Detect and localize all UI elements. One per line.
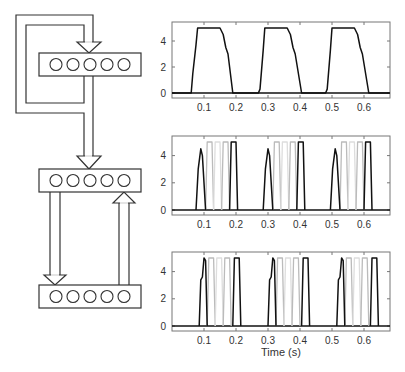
x-tick-label: 0.2: [229, 102, 243, 113]
x-tick-label: 0.4: [293, 102, 307, 113]
x-tick-label: 0.4: [293, 219, 307, 230]
x-axis-title: Time (s): [261, 346, 301, 358]
recurrent-layer: [39, 53, 141, 76]
x-tick-label: 0.1: [197, 102, 211, 113]
x-tick-label: 0.6: [357, 219, 371, 230]
x-tick-label: 0.1: [197, 219, 211, 230]
figure: 0240.10.20.30.40.50.60240.10.20.30.40.50…: [0, 0, 405, 372]
network-diagram: [16, 0, 141, 308]
chart-panel-3: 0240.10.20.30.40.50.6: [160, 252, 390, 346]
x-tick-label: 0.6: [357, 335, 371, 346]
feedback-outer-edge: [16, 15, 93, 156]
bottom-layer: [39, 285, 141, 308]
arrowhead-into-top-layer: [77, 42, 101, 53]
x-tick-label: 0.5: [325, 335, 339, 346]
y-tick-label: 4: [160, 36, 166, 47]
x-tick-label: 0.5: [325, 102, 339, 113]
x-tick-label: 0.2: [229, 219, 243, 230]
y-tick-label: 0: [160, 205, 166, 216]
y-tick-label: 0: [160, 321, 166, 332]
y-tick-label: 4: [160, 150, 166, 161]
y-tick-label: 2: [160, 293, 166, 304]
x-tick-label: 0.3: [261, 335, 275, 346]
x-tick-label: 0.1: [197, 335, 211, 346]
activity-charts: 0240.10.20.30.40.50.60240.10.20.30.40.50…: [160, 22, 390, 346]
middle-layer: [39, 169, 141, 192]
y-tick-label: 2: [160, 62, 166, 73]
arrowhead-into-bottom-layer: [44, 275, 66, 285]
arrowhead-into-middle-layer-from-bottom: [113, 192, 135, 203]
y-tick-label: 2: [160, 177, 166, 188]
x-tick-label: 0.3: [261, 102, 275, 113]
chart-panel-1: 0240.10.20.30.40.50.6: [160, 22, 390, 113]
chart-panel-2: 0240.10.20.30.40.50.6: [160, 136, 390, 230]
arrowhead-into-middle-layer: [77, 156, 101, 169]
y-tick-label: 0: [160, 88, 166, 99]
y-tick-label: 4: [160, 266, 166, 277]
x-tick-label: 0.4: [293, 335, 307, 346]
x-tick-label: 0.3: [261, 219, 275, 230]
x-tick-label: 0.5: [325, 219, 339, 230]
x-tick-label: 0.2: [229, 335, 243, 346]
x-tick-label: 0.6: [357, 102, 371, 113]
